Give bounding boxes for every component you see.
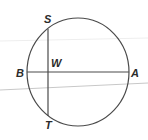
label-b: B (16, 67, 24, 79)
label-a: A (130, 67, 139, 79)
label-s: S (44, 13, 52, 25)
circle-chords-diagram: S T B A W (0, 0, 148, 140)
label-w: W (51, 57, 63, 69)
artifact-line-lower (0, 83, 148, 90)
diagram-canvas: S T B A W (0, 0, 148, 140)
artifact-line-upper (0, 38, 148, 41)
label-t: T (45, 119, 53, 131)
